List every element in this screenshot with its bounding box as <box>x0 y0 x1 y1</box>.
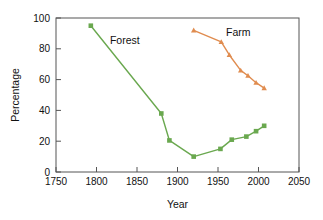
data-point-marker <box>244 134 249 139</box>
data-point-marker <box>254 129 259 134</box>
x-tick-label: 1950 <box>207 176 230 187</box>
x-tick-label: 1850 <box>126 176 149 187</box>
data-point-marker <box>89 23 94 28</box>
series-label-forest: Forest <box>110 34 140 46</box>
x-tick-label: 1750 <box>45 176 68 187</box>
data-point-marker <box>262 124 267 129</box>
y-tick-label: 40 <box>39 105 51 116</box>
line-chart: 0204060801001750180018501900195020002050… <box>0 0 323 220</box>
chart-container: 0204060801001750180018501900195020002050… <box>0 0 323 220</box>
x-axis-title: Year <box>167 198 189 210</box>
y-axis-title: Percentage <box>9 68 21 122</box>
series-label-farm: Farm <box>226 26 251 38</box>
data-point-marker <box>191 154 196 159</box>
x-tick-label: 2000 <box>247 176 270 187</box>
data-point-marker <box>229 137 234 142</box>
y-tick-label: 80 <box>39 43 51 54</box>
data-point-marker <box>167 138 172 143</box>
data-point-marker <box>159 111 164 116</box>
y-tick-label: 20 <box>39 136 51 147</box>
y-tick-label: 60 <box>39 74 51 85</box>
data-point-marker <box>218 147 223 152</box>
x-tick-label: 1900 <box>166 176 189 187</box>
y-tick-label: 100 <box>33 13 50 24</box>
x-tick-label: 2050 <box>288 176 311 187</box>
x-tick-label: 1800 <box>85 176 108 187</box>
